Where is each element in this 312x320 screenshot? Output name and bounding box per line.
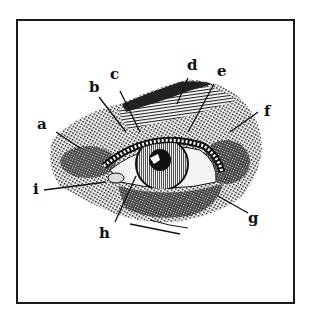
label-h: h bbox=[99, 226, 110, 241]
diagram-canvas: a b c d e f g h i bbox=[0, 0, 312, 320]
label-d: d bbox=[187, 58, 198, 73]
label-e: e bbox=[217, 64, 227, 79]
label-a: a bbox=[37, 117, 47, 132]
label-b: b bbox=[89, 80, 100, 95]
label-f: f bbox=[264, 104, 270, 119]
label-c: c bbox=[110, 67, 119, 82]
inner-canthus bbox=[108, 173, 124, 183]
eye-illustration bbox=[0, 0, 312, 320]
label-g: g bbox=[248, 211, 259, 226]
label-i: i bbox=[33, 182, 39, 197]
